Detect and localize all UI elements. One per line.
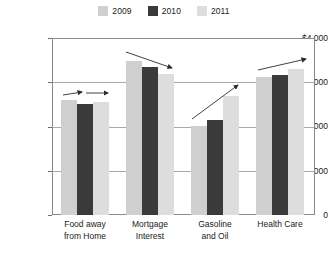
x-axis-label-mortgage-interest: Mortgage Interest — [114, 219, 186, 242]
x-axis-label-line: Gasoline — [179, 219, 251, 231]
y-axis-tick-mark — [48, 215, 52, 216]
bar-mortgage-interest-2011 — [158, 74, 174, 215]
bar-mortgage-interest-2009 — [126, 61, 142, 215]
x-axis-label-line: from Home — [49, 231, 121, 243]
legend-item-2010: 2010 — [148, 6, 181, 16]
x-axis-label-line: Food away — [49, 219, 121, 231]
x-axis-label-line: Health Care — [244, 219, 316, 231]
bar-food-away-from-home-2010 — [77, 104, 93, 215]
bar-gasoline-and-oil-2011 — [223, 96, 239, 215]
chart-legend: 2009 2010 2011 — [0, 4, 328, 18]
x-axis-label-health-care: Health Care — [244, 219, 316, 231]
bar-health-care-2009 — [256, 77, 272, 215]
x-axis-label-line: Mortgage — [114, 219, 186, 231]
bar-chart: 2009 2010 2011 $4,000 3,000 2,000 1,000 … — [0, 0, 328, 272]
bar-health-care-2011 — [288, 69, 304, 215]
bar-gasoline-and-oil-2010 — [207, 120, 223, 215]
legend-label-2011: 2011 — [211, 7, 230, 16]
bar-food-away-from-home-2011 — [93, 102, 109, 215]
x-axis-labels: Food away from Home Mortgage Interest Ga… — [52, 219, 315, 255]
x-axis-label-line: Interest — [114, 231, 186, 243]
x-axis-label-line: and Oil — [179, 231, 251, 243]
bar-food-away-from-home-2009 — [61, 100, 77, 215]
x-axis-label-food-away-from-home: Food away from Home — [49, 219, 121, 242]
x-axis-label-gasoline-and-oil: Gasoline and Oil — [179, 219, 251, 242]
bar-health-care-2010 — [272, 75, 288, 215]
legend-item-2009: 2009 — [98, 6, 131, 16]
legend-swatch-2010 — [148, 6, 158, 16]
legend-item-2011: 2011 — [197, 6, 230, 16]
legend-label-2009: 2009 — [112, 7, 131, 16]
legend-swatch-2009 — [98, 6, 108, 16]
bar-gasoline-and-oil-2009 — [191, 126, 207, 215]
bar-mortgage-interest-2010 — [142, 67, 158, 215]
legend-swatch-2011 — [197, 6, 207, 16]
legend-label-2010: 2010 — [162, 7, 181, 16]
bars-layer — [52, 38, 315, 215]
